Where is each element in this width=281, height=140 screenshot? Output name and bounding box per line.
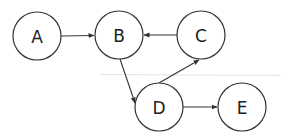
node-e: E — [218, 83, 266, 131]
edge-d-to-c — [159, 60, 199, 83]
edge-a-to-b — [61, 36, 94, 37]
graph-canvas: A B C D E — [0, 0, 281, 140]
divider-line — [100, 75, 281, 76]
edge-b-to-d — [120, 59, 135, 103]
node-b: B — [95, 11, 143, 59]
node-d: D — [135, 83, 183, 131]
node-a-label: A — [31, 27, 43, 47]
node-a: A — [13, 12, 61, 60]
node-c-label: C — [195, 26, 207, 46]
node-e-label: E — [237, 98, 248, 118]
node-d-label: D — [152, 98, 165, 118]
node-b-label: B — [113, 26, 125, 46]
node-c: C — [177, 11, 225, 59]
